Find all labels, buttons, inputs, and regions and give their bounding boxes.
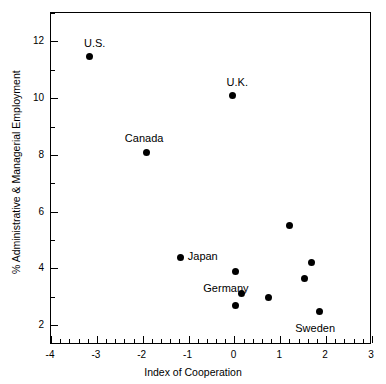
x-axis-minor-tick [198,339,199,343]
x-axis-minor-tick [207,339,208,343]
point-label: U.K. [227,76,248,88]
point-label: Germany [203,282,248,294]
y-axis-major-tick [51,325,58,326]
x-axis-minor-tick [79,339,80,343]
x-axis-minor-tick [60,339,61,343]
y-axis-minor-tick [51,240,55,241]
x-axis-minor-tick [363,339,364,343]
data-point [232,302,239,309]
x-axis-minor-tick [152,339,153,343]
x-axis-minor-tick [225,339,226,343]
y-tick-label: 10 [16,92,44,103]
y-tick-label: 12 [16,35,44,46]
x-axis-major-tick [143,336,144,343]
x-tick-label: 2 [322,349,328,360]
x-tick-label: -1 [183,349,192,360]
y-axis-minor-tick [51,13,55,14]
x-axis-minor-tick [244,339,245,343]
data-point [286,222,293,229]
data-point [177,254,184,261]
point-label: Japan [188,250,218,262]
x-axis-minor-tick [354,339,355,343]
x-axis-minor-tick [170,339,171,343]
data-point [229,92,236,99]
y-axis-major-tick [51,212,58,213]
x-axis-minor-tick [289,339,290,343]
x-axis-major-tick [326,336,327,343]
data-point [316,308,323,315]
x-axis-minor-tick [335,339,336,343]
data-point [86,53,93,60]
y-tick-label: 2 [16,319,44,330]
x-tick-label: 0 [231,349,237,360]
x-axis-major-tick [97,336,98,343]
point-label: U.S. [84,37,105,49]
x-axis-minor-tick [299,339,300,343]
x-axis-minor-tick [216,339,217,343]
data-point [308,259,315,266]
y-axis-minor-tick [51,183,55,184]
x-axis-minor-tick [253,339,254,343]
data-point [232,268,239,275]
x-axis-minor-tick [124,339,125,343]
x-axis-minor-tick [308,339,309,343]
point-label: Sweden [295,322,335,334]
x-axis-major-tick [234,336,235,343]
y-tick-label: 8 [16,148,44,159]
y-tick-label: 6 [16,205,44,216]
x-axis-minor-tick [262,339,263,343]
x-axis-major-tick [189,336,190,343]
x-tick-label: 1 [277,349,283,360]
y-axis-major-tick [51,268,58,269]
y-axis-major-tick [51,41,58,42]
y-axis-minor-tick [51,70,55,71]
scatter-chart-figure: % Administrative & Managerial Employment… [0,0,386,384]
plot-area: U.S.U.K.CanadaJapanGermanySweden [50,12,371,344]
x-axis-major-tick [51,336,52,343]
data-point [301,275,308,282]
y-axis-minor-tick [51,127,55,128]
data-point [265,294,272,301]
x-tick-label: -2 [137,349,146,360]
x-axis-major-tick [280,336,281,343]
x-axis-minor-tick [271,339,272,343]
y-tick-label: 4 [16,262,44,273]
x-axis-minor-tick [69,339,70,343]
y-axis-major-tick [51,98,58,99]
x-tick-label: -4 [46,349,55,360]
x-axis-minor-tick [161,339,162,343]
y-axis-minor-tick [51,297,55,298]
x-axis-minor-tick [106,339,107,343]
x-axis-minor-tick [134,339,135,343]
y-axis-major-tick [51,155,58,156]
x-tick-label: 3 [368,349,374,360]
point-label: Canada [125,132,164,144]
x-axis-minor-tick [317,339,318,343]
x-axis-minor-tick [179,339,180,343]
x-axis-minor-tick [115,339,116,343]
x-axis-minor-tick [344,339,345,343]
x-axis-minor-tick [88,339,89,343]
x-tick-label: -3 [91,349,100,360]
x-axis-title: Index of Cooperation [0,366,386,378]
y-axis-title: % Administrative & Managerial Employment [10,74,22,274]
x-axis-major-tick [372,336,373,343]
data-point [143,149,150,156]
